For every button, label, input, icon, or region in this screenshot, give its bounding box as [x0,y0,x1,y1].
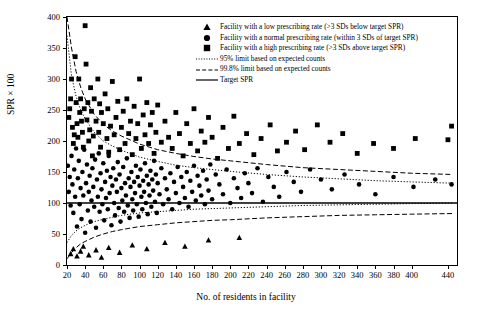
legend-item-high: Facility with a high prescribing rate (>… [196,43,418,54]
x-tick-mark [158,265,159,269]
y-tick-label: 50 [34,229,60,239]
legend-label-target: Target SPR [218,75,253,86]
x-tick-mark [321,265,322,269]
x-tick-mark [357,265,358,269]
y-tick-label: 250 [34,105,60,115]
legend-label-normal: Facility with a normal prescribing rate … [218,33,418,44]
x-tick-mark [339,265,340,269]
legend: Facility with a low prescribing rate (>3… [196,22,418,86]
y-tick-label: 350 [34,43,60,53]
y-tick-mark [63,141,67,142]
x-tick-mark [394,265,395,269]
legend-item-low: Facility with a low prescribing rate (>3… [196,22,418,33]
y-tick-label: 100 [34,198,60,208]
y-tick-label: 200 [34,136,60,146]
y-axis-label: SPR × 100 [6,74,16,115]
y-tick-label: 0 [34,260,60,270]
dashed-line-icon [196,67,218,73]
y-tick-mark [63,234,67,235]
x-tick-mark [267,265,268,269]
x-tick-mark [67,265,68,269]
dotted-line-icon [196,56,218,62]
solid-line-icon [196,77,218,83]
x-tick-mark [103,265,104,269]
x-tick-mark [303,265,304,269]
x-tick-mark [176,265,177,269]
square-marker-icon [196,44,218,52]
y-tick-mark [63,79,67,80]
x-tick-mark [230,265,231,269]
y-tick-label: 400 [34,12,60,22]
x-tick-label: 400 [400,270,424,280]
legend-item-95: 95% limit based on expected counts [196,54,418,65]
triangle-marker-icon [196,23,218,31]
y-tick-label: 150 [34,167,60,177]
x-tick-mark [412,265,413,269]
x-axis-label: No. of residents in facility [0,292,492,302]
y-tick-mark [63,172,67,173]
x-tick-mark [285,265,286,269]
y-tick-mark [63,17,67,18]
x-tick-mark [121,265,122,269]
legend-item-normal: Facility with a normal prescribing rate … [196,33,418,44]
circle-marker-icon [196,34,218,42]
x-tick-label: 440 [436,270,460,280]
chart-figure: SPR × 100 No. of residents in facility 0… [0,0,492,324]
y-tick-label: 300 [34,74,60,84]
y-tick-mark [63,110,67,111]
legend-label-high: Facility with a high prescribing rate (>… [218,43,405,54]
x-tick-mark [212,265,213,269]
x-tick-mark [448,265,449,269]
x-tick-mark [248,265,249,269]
legend-item-998: 99.8% limit based on expected counts [196,64,418,75]
legend-label-95: 95% limit based on expected counts [218,54,325,65]
x-tick-mark [140,265,141,269]
y-tick-mark [63,48,67,49]
x-tick-mark [85,265,86,269]
legend-item-target: Target SPR [196,75,418,86]
x-tick-mark [194,265,195,269]
legend-label-998: 99.8% limit based on expected counts [218,64,331,75]
x-tick-mark [375,265,376,269]
y-tick-mark [63,203,67,204]
legend-label-low: Facility with a low prescribing rate (>3… [218,22,404,33]
